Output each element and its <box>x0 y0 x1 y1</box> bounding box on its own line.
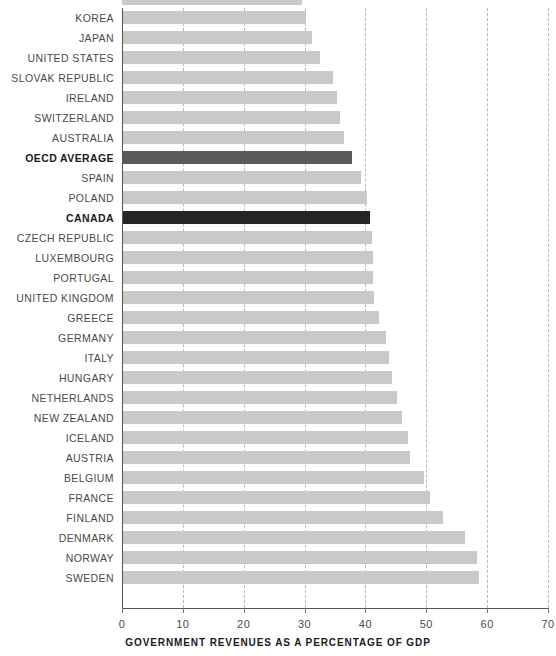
tick-mark-20 <box>244 608 245 613</box>
bar-row <box>122 468 548 488</box>
bar-oecd-average <box>122 151 352 164</box>
category-label-denmark: DENMARK <box>59 528 114 548</box>
tick-label-50: 50 <box>420 618 433 630</box>
category-label-portugal: PORTUGAL <box>53 268 114 288</box>
plot-area <box>122 8 548 608</box>
category-label-spain: SPAIN <box>81 168 114 188</box>
bar-switzerland <box>122 111 340 124</box>
category-label-united-kingdom: UNITED KINGDOM <box>16 288 114 308</box>
category-label-finland: FINLAND <box>66 508 114 528</box>
category-label-iceland: ICELAND <box>66 428 114 448</box>
category-label-luxembourg: LUXEMBOURG <box>35 248 114 268</box>
bar-row <box>122 28 548 48</box>
tick-mark-70 <box>548 608 549 613</box>
bar-greece <box>122 311 379 324</box>
bar-row <box>122 488 548 508</box>
bar-row <box>122 208 548 228</box>
bar-canada <box>122 211 370 224</box>
bar-luxembourg <box>122 251 373 264</box>
bar-austria <box>122 451 410 464</box>
bar-row <box>122 508 548 528</box>
gridline-70 <box>548 8 549 608</box>
bar-united-states <box>122 51 320 64</box>
bar-row <box>122 348 548 368</box>
tick-label-10: 10 <box>176 618 189 630</box>
bar-row <box>122 68 548 88</box>
bar-row <box>122 228 548 248</box>
bar-poland <box>122 191 367 204</box>
bar-new-zealand <box>122 411 402 424</box>
clipped-top-bar <box>122 0 302 5</box>
tick-mark-0 <box>122 608 123 613</box>
category-label-italy: ITALY <box>84 348 114 368</box>
bar-row <box>122 8 548 28</box>
tick-mark-60 <box>487 608 488 613</box>
bar-norway <box>122 551 477 564</box>
tick-label-20: 20 <box>237 618 250 630</box>
bar-row <box>122 368 548 388</box>
bar-row <box>122 188 548 208</box>
bar-row <box>122 48 548 68</box>
category-label-new-zealand: NEW ZEALAND <box>34 408 114 428</box>
bar-row <box>122 408 548 428</box>
bar-row <box>122 288 548 308</box>
category-labels-column: KOREAJAPANUNITED STATESSLOVAK REPUBLICIR… <box>0 8 122 608</box>
tick-label-30: 30 <box>298 618 311 630</box>
category-label-austria: AUSTRIA <box>66 448 114 468</box>
category-label-united-states: UNITED STATES <box>28 48 114 68</box>
category-label-oecd-average: OECD AVERAGE <box>25 148 114 168</box>
bar-row <box>122 128 548 148</box>
bar-germany <box>122 331 386 344</box>
category-label-norway: NORWAY <box>66 548 114 568</box>
category-label-greece: GREECE <box>67 308 114 328</box>
tick-mark-40 <box>365 608 366 613</box>
bar-australia <box>122 131 344 144</box>
y-axis-line <box>122 8 123 610</box>
bar-row <box>122 328 548 348</box>
bar-row <box>122 248 548 268</box>
bar-sweden <box>122 571 479 584</box>
category-label-czech-republic: CZECH REPUBLIC <box>17 228 114 248</box>
tick-mark-50 <box>426 608 427 613</box>
bar-row <box>122 548 548 568</box>
bar-row <box>122 448 548 468</box>
bar-finland <box>122 511 443 524</box>
bar-korea <box>122 11 306 24</box>
category-label-ireland: IRELAND <box>66 88 114 108</box>
x-axis-ticks: 010203040506070 <box>122 608 549 616</box>
tick-label-0: 0 <box>119 618 126 630</box>
bar-row <box>122 268 548 288</box>
bar-row <box>122 528 548 548</box>
category-label-france: FRANCE <box>68 488 114 508</box>
tick-label-60: 60 <box>481 618 494 630</box>
clipped-top-row <box>0 0 556 7</box>
bar-iceland <box>122 431 408 444</box>
bar-row <box>122 428 548 448</box>
bar-united-kingdom <box>122 291 374 304</box>
tick-label-70: 70 <box>541 618 554 630</box>
category-label-slovak-republic: SLOVAK REPUBLIC <box>11 68 114 88</box>
bar-row <box>122 568 548 588</box>
bar-ireland <box>122 91 337 104</box>
category-label-canada: CANADA <box>66 208 114 228</box>
bar-netherlands <box>122 391 397 404</box>
category-label-poland: POLAND <box>68 188 114 208</box>
bar-spain <box>122 171 361 184</box>
bar-row <box>122 168 548 188</box>
bar-row <box>122 308 548 328</box>
tick-mark-30 <box>305 608 306 613</box>
bar-row <box>122 388 548 408</box>
category-label-japan: JAPAN <box>79 28 114 48</box>
bar-slovak-republic <box>122 71 333 84</box>
bar-belgium <box>122 471 424 484</box>
bar-czech-republic <box>122 231 372 244</box>
category-label-netherlands: NETHERLANDS <box>31 388 114 408</box>
bar-row <box>122 148 548 168</box>
category-label-hungary: HUNGARY <box>59 368 114 388</box>
bar-rows <box>122 8 548 608</box>
category-label-sweden: SWEDEN <box>66 568 115 588</box>
x-axis-title: GOVERNMENT REVENUES AS A PERCENTAGE OF G… <box>0 637 556 648</box>
bar-france <box>122 491 430 504</box>
bar-japan <box>122 31 312 44</box>
category-label-switzerland: SWITZERLAND <box>34 108 114 128</box>
